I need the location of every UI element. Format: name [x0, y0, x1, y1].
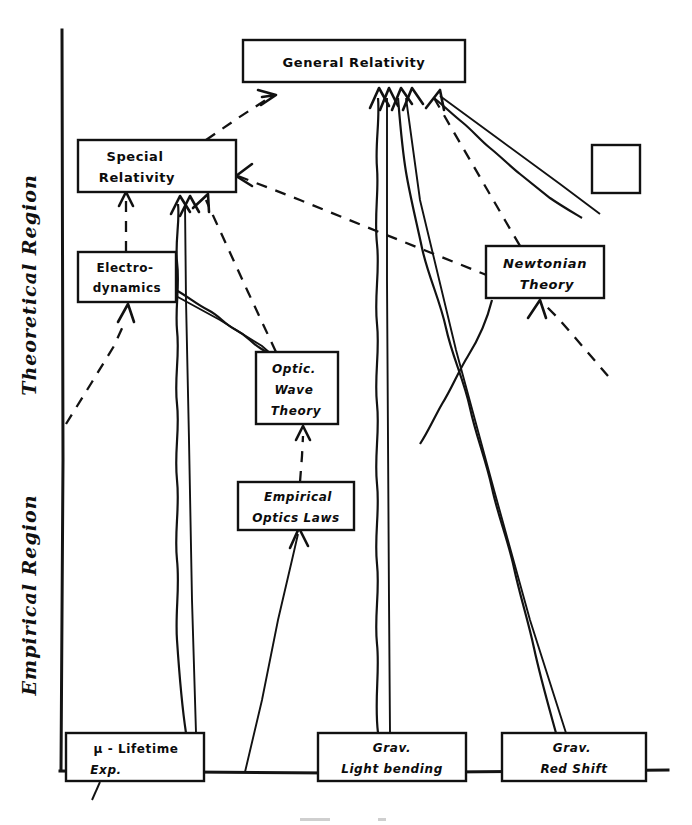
edge-owt-to-sr — [206, 200, 276, 352]
node-label-electrodynamics-line2: dynamics — [93, 281, 162, 295]
arrowhead-right-field-to-sr — [236, 164, 252, 186]
caption-remnant-mark — [300, 818, 330, 821]
edge-baseline-to-eol — [245, 534, 298, 772]
node-grav-light-bending[interactable]: Grav. Light bending — [318, 733, 466, 781]
node-optic-wave-theory[interactable]: Optic. Wave Theory — [256, 352, 338, 424]
arrowhead-lowerleft-to-ed — [118, 304, 134, 322]
empirical-region-label: Empirical Region — [18, 495, 40, 697]
edge-gr-to-unlabeled-pair — [440, 96, 600, 214]
node-newtonian-theory[interactable]: Newtonian Theory — [486, 246, 604, 298]
node-label-newtonian-theory-line2: Theory — [520, 277, 574, 292]
edge-mu-to-sr-pair — [185, 204, 196, 733]
node-general-relativity[interactable]: General Relativity — [243, 40, 465, 82]
node-box-mu-lifetime-exp[interactable] — [66, 733, 204, 781]
node-label-newtonian-theory-line1: Newtonian — [503, 256, 587, 271]
hand-drawn-diagram: Theoretical Region Empirical Region — [0, 0, 692, 825]
edge-lightbending-to-gr-pair — [387, 98, 390, 733]
edge-nt-to-gr-upper — [434, 98, 582, 218]
node-special-relativity[interactable]: Special Relativity — [78, 140, 236, 192]
node-label-special-relativity-line2: Relativity — [99, 170, 175, 185]
node-label-general-relativity: General Relativity — [283, 55, 426, 70]
edges-group — [66, 88, 608, 800]
node-label-empirical-optics-laws-line1: Empirical — [264, 490, 332, 504]
node-label-empirical-optics-laws-line2: Optics Laws — [252, 511, 340, 525]
edge-gr-to-nt — [434, 98, 526, 256]
edge-redshift-to-gr — [398, 98, 556, 733]
edge-right-to-nt — [542, 302, 608, 376]
node-label-optic-wave-theory-line2: Wave — [275, 383, 314, 397]
arrowhead-gr-to-nt — [528, 300, 546, 318]
edge-eol-to-owt — [300, 436, 303, 482]
theoretical-region-label: Theoretical Region — [18, 174, 40, 395]
node-unlabeled-box[interactable] — [592, 145, 640, 193]
y-axis-line — [61, 30, 63, 770]
caption-remnant — [300, 818, 386, 821]
edge-mu-to-sr — [176, 204, 186, 733]
node-label-electrodynamics-line1: Electro- — [96, 261, 153, 275]
node-label-grav-light-bending-line1: Grav. — [373, 741, 411, 755]
region-labels: Theoretical Region Empirical Region — [18, 174, 40, 696]
figure-canvas: Theoretical Region Empirical Region — [0, 0, 692, 825]
edge-nt-to-gr — [420, 300, 492, 444]
node-label-grav-red-shift-line1: Grav. — [553, 741, 591, 755]
node-label-mu-lifetime-exp-line1: μ - Lifetime — [94, 742, 179, 756]
edge-lowerleft-to-ed — [66, 324, 124, 424]
arrowhead-mu-to-sr — [171, 196, 190, 214]
node-label-optic-wave-theory-line3: Theory — [271, 404, 322, 418]
node-label-optic-wave-theory-line1: Optic. — [272, 362, 316, 376]
edge-lightbending-to-gr — [376, 98, 378, 733]
node-empirical-optics-laws[interactable]: Empirical Optics Laws — [238, 482, 354, 530]
edge-redshift-to-gr-pair — [406, 98, 566, 733]
node-box-electrodynamics[interactable] — [78, 252, 176, 302]
node-electrodynamics[interactable]: Electro- dynamics — [78, 252, 176, 302]
node-mu-lifetime-exp[interactable]: μ - Lifetime Exp. — [66, 733, 204, 781]
node-label-grav-light-bending-line2: Light bending — [341, 762, 443, 776]
node-grav-red-shift[interactable]: Grav. Red Shift — [502, 733, 646, 781]
edge-right-field-to-sr — [238, 176, 508, 284]
node-label-grav-red-shift-line2: Red Shift — [540, 762, 608, 776]
stray-mark-below-mu — [92, 782, 100, 800]
node-label-mu-lifetime-exp-line2: Exp. — [90, 763, 122, 777]
node-label-special-relativity-line1: Special — [106, 149, 163, 164]
node-box-unlabeled[interactable] — [592, 145, 640, 193]
caption-remnant-mark-b — [378, 818, 386, 821]
edge-sr-to-gr — [206, 96, 272, 140]
